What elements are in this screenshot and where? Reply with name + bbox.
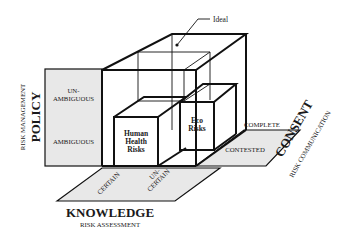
knowledge-panel bbox=[57, 168, 220, 201]
ideal-marker bbox=[175, 19, 210, 47]
policy-title: POLICY bbox=[28, 91, 43, 142]
policy-subtitle: RISK MANAGEMENT bbox=[19, 83, 26, 150]
knowledge-title: KNOWLEDGE bbox=[66, 205, 154, 220]
policy-level-unambiguous-line1: UN- bbox=[67, 87, 80, 94]
consent-level-contested: CONTESTED bbox=[225, 146, 265, 153]
risk-cube-diagram: Ideal UN- AMBIGUOUS AMBIGUOUS POLICY RIS… bbox=[0, 0, 346, 238]
eco-risks-box bbox=[180, 84, 236, 150]
knowledge-subtitle: RISK ASSESSMENT bbox=[80, 221, 141, 228]
policy-level-ambiguous: AMBIGUOUS bbox=[53, 138, 94, 145]
consent-level-complete: COMPLETE bbox=[244, 121, 280, 128]
eco-label-2: Risks bbox=[188, 124, 206, 133]
policy-level-unambiguous-line2: AMBIGUOUS bbox=[53, 95, 94, 102]
policy-panel bbox=[45, 69, 102, 166]
human-health-label-3: Risks bbox=[127, 145, 145, 154]
ideal-label: Ideal bbox=[213, 15, 228, 24]
